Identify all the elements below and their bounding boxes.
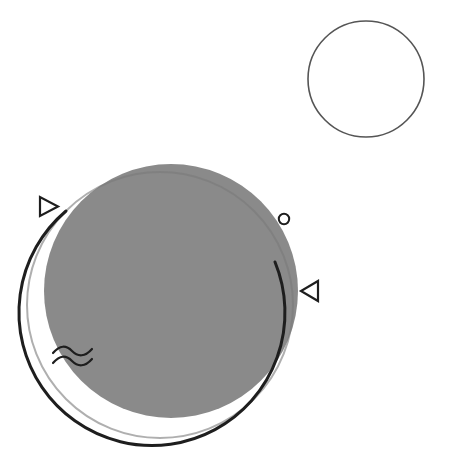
filled-gray-circle — [44, 164, 298, 418]
tiny-ring-icon — [279, 214, 289, 224]
triangle-right-icon — [40, 197, 58, 216]
abstract-composition — [0, 0, 449, 460]
triangle-left-icon — [301, 281, 318, 301]
small-outline-circle — [308, 21, 424, 137]
artwork — [0, 0, 449, 460]
